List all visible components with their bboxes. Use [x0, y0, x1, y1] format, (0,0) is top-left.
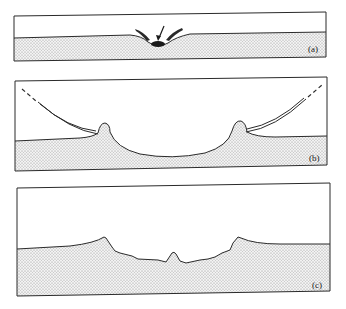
panel-b-ground: [15, 121, 327, 171]
crater-formation-diagram: (a) (b) (c): [0, 0, 346, 309]
panel-c-label: (c): [312, 280, 322, 290]
panel-a: (a): [14, 12, 326, 61]
impactor: [151, 41, 165, 47]
ejecta-curtain-right: [246, 98, 306, 132]
panel-b-label: (b): [309, 153, 320, 163]
panel-a-label: (a): [308, 44, 318, 54]
ejecta-curtain-left-dashed: [22, 89, 36, 101]
ejecta-curtain-right-dashed: [308, 85, 322, 97]
panel-b: (b): [15, 77, 327, 171]
panel-c: (c): [17, 183, 330, 296]
impact-arrow-head: [156, 35, 161, 41]
ejecta-curtain-left: [38, 102, 98, 134]
